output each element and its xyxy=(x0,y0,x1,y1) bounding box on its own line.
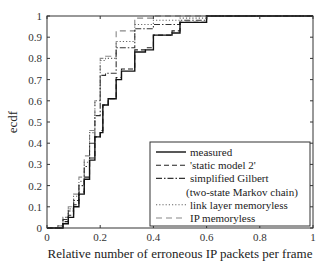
y-tick-label: 0.3 xyxy=(28,158,42,170)
y-tick-label: 0.5 xyxy=(28,116,42,128)
legend-label: IP memoryless xyxy=(190,212,255,224)
y-tick-label: 0.2 xyxy=(28,180,42,192)
legend: measured'static model 2'simplified Gilbe… xyxy=(150,142,310,226)
x-tick-label: 0 xyxy=(44,231,50,243)
y-tick-label: 0.1 xyxy=(28,201,42,213)
x-tick-label: 0.2 xyxy=(93,231,107,243)
x-tick-label: 0.4 xyxy=(147,231,161,243)
legend-label: link layer memoryless xyxy=(190,199,288,211)
y-tick-label: 0.8 xyxy=(28,52,42,64)
y-tick-label: 0.6 xyxy=(28,95,42,107)
y-tick-label: 0.4 xyxy=(28,137,42,149)
y-axis-label: ecdf xyxy=(5,110,20,133)
x-tick-label: 0.6 xyxy=(200,231,214,243)
x-tick-label: 0.8 xyxy=(253,231,267,243)
x-tick-label: 1 xyxy=(310,231,316,243)
ecdf-chart: 00.20.40.60.8100.10.20.30.40.50.60.70.80… xyxy=(0,0,328,267)
legend-label: measured xyxy=(190,146,233,158)
y-tick-label: 0.7 xyxy=(28,74,42,86)
x-axis-label: Relative number of erroneous IP packets … xyxy=(48,246,313,261)
legend-label: 'static model 2' xyxy=(190,159,256,171)
legend-label: (two-state Markov chain) xyxy=(186,186,298,199)
legend-label: simplified Gilbert xyxy=(190,172,269,184)
y-tick-label: 1 xyxy=(37,10,43,22)
y-tick-label: 0 xyxy=(37,222,43,234)
y-tick-label: 0.9 xyxy=(28,31,42,43)
